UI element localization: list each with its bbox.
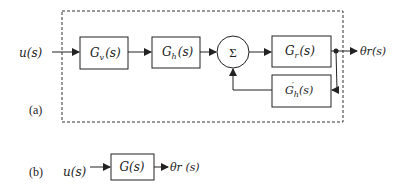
svg-text:Gr(s): Gr(s) (285, 44, 315, 60)
output-label-a: θr(s) (360, 45, 386, 58)
svg-text:Σ: Σ (229, 45, 237, 60)
svg-text:Gh(s): Gh(s) (285, 84, 313, 99)
part-a-label: (a) (29, 103, 42, 117)
feedback-line-return (233, 69, 272, 90)
summing-junction: Σ (217, 36, 249, 68)
part-b-label: (b) (29, 165, 43, 179)
block-g: G(s) (111, 154, 154, 180)
svg-text:Gv(s): Gv(s) (90, 46, 121, 62)
input-label-a: u(s) (19, 46, 43, 60)
input-label-b: u(s) (63, 165, 87, 179)
svg-text:′: ′ (292, 80, 294, 89)
output-label-b: θr (s) (170, 161, 200, 174)
block-gv: Gv(s) (80, 37, 128, 69)
block-diagram: u(s) Gv(s) Gh(s) Σ Gr(s) θr(s) Gh(s) ′ (… (0, 0, 398, 189)
feedback-line-down (332, 51, 337, 90)
block-feedback: Gh(s) ′ (272, 75, 331, 107)
svg-text:G(s): G(s) (119, 160, 144, 174)
svg-text:Gh(s): Gh(s) (162, 45, 194, 61)
block-gr: Gr(s) (272, 36, 331, 67)
block-gh: Gh(s) (152, 37, 200, 68)
